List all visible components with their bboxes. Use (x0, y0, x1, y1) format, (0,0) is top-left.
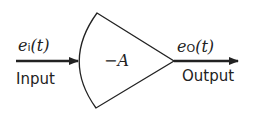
output-label: Output (182, 67, 234, 85)
input-label: Input (16, 70, 55, 88)
output-signal-label: eO(t) (177, 37, 214, 56)
input-signal-label: ei(t) (18, 36, 49, 55)
gain-label: −A (104, 51, 129, 70)
